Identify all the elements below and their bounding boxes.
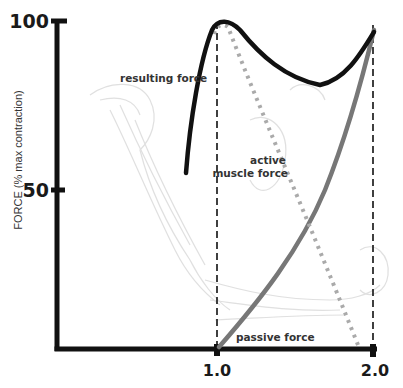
y-tick-label-50: 50	[23, 179, 49, 201]
y-axis-title: FORCE (% max contraction)	[12, 90, 24, 229]
arm-illustration	[90, 84, 388, 320]
label-passive-force: passive force	[236, 331, 315, 343]
x-tick-label-1-0: 1.0	[203, 361, 231, 380]
label-resulting-force: resulting force	[120, 72, 207, 84]
label-active-line2: muscle force	[212, 167, 288, 179]
y-tick-label-100: 100	[9, 10, 49, 32]
force-length-diagram: 100 50 1.0 2.0 FORCE (% max contraction)…	[0, 0, 403, 388]
x-tick-label-2-0: 2.0	[361, 361, 389, 380]
label-active-line1: active	[250, 154, 286, 166]
